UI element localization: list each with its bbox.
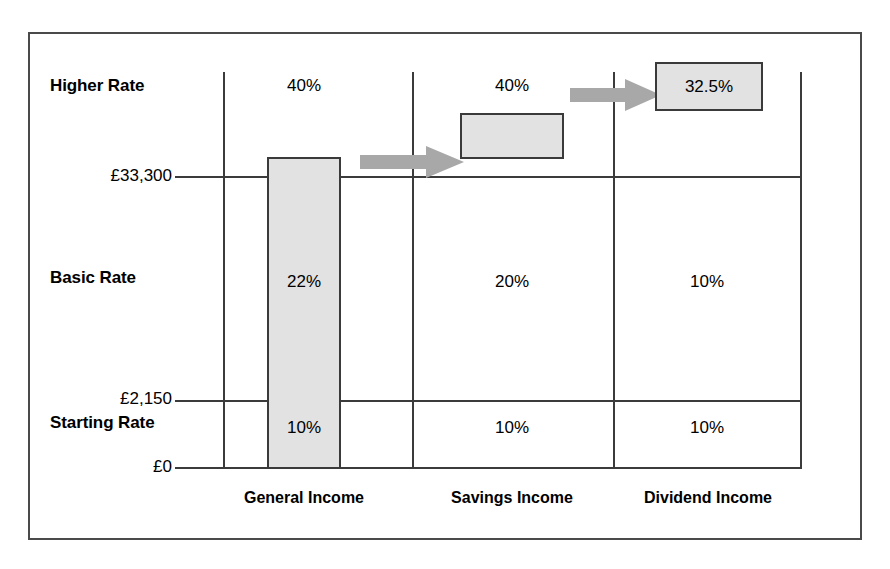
column-header-general: General Income [224, 489, 384, 507]
tax-rates-diagram: Higher Rate Basic Rate Starting Rate £33… [0, 0, 890, 569]
dividend-income-box: 32.5% [655, 62, 763, 111]
savings-income-box [460, 113, 564, 159]
band-label-higher: Higher Rate [50, 76, 144, 96]
column-divider-1 [412, 72, 414, 469]
rate-savings-starting: 10% [462, 418, 562, 438]
rate-dividend-basic: 10% [657, 272, 757, 292]
rate-savings-basic: 20% [462, 272, 562, 292]
flow-arrow-general-to-savings [360, 145, 465, 179]
column-header-dividend: Dividend Income [628, 489, 788, 507]
band-label-starting: Starting Rate [50, 413, 155, 433]
rate-general-higher: 40% [254, 76, 354, 96]
axis-label-0: £0 [12, 457, 172, 477]
column-divider-left [223, 72, 225, 469]
band-label-basic: Basic Rate [50, 268, 136, 288]
column-header-savings: Savings Income [432, 489, 592, 507]
rate-savings-higher: 40% [462, 76, 562, 96]
axis-label-33300: £33,300 [12, 166, 172, 186]
rate-general-starting: 10% [254, 418, 354, 438]
rate-general-basic: 22% [254, 272, 354, 292]
diagram-plot-area: Higher Rate Basic Rate Starting Rate £33… [0, 0, 890, 569]
rate-dividend-starting: 10% [657, 418, 757, 438]
column-divider-2 [613, 72, 615, 469]
flow-arrow-savings-to-dividend [570, 78, 662, 112]
column-divider-right [800, 72, 802, 469]
axis-label-2150: £2,150 [12, 389, 172, 409]
